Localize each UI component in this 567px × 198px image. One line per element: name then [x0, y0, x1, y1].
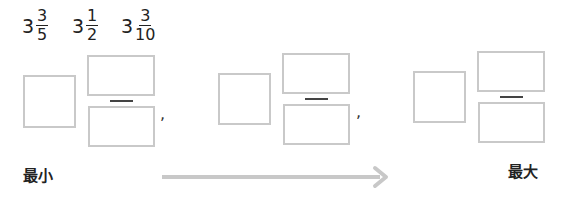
whole-part: 3	[121, 15, 133, 37]
whole-part: 3	[72, 15, 84, 37]
whole-part: 3	[22, 15, 34, 37]
denominator: 10	[135, 26, 155, 43]
answer-3-denominator-box[interactable]	[478, 102, 545, 143]
fraction-bar	[110, 100, 133, 102]
denominator: 5	[37, 26, 47, 43]
answer-3-whole-box[interactable]	[413, 71, 466, 123]
fraction-bar	[305, 98, 328, 100]
answer-3-numerator-box[interactable]	[477, 51, 545, 92]
answer-1-numerator-box[interactable]	[87, 55, 155, 96]
order-arrow-line	[162, 175, 380, 179]
min-label: 最小	[23, 164, 53, 185]
answer-1-whole-box[interactable]	[23, 75, 76, 128]
arrow-right-icon	[372, 165, 390, 189]
numerator: 3	[139, 8, 151, 26]
fraction-bar	[500, 96, 523, 98]
separator-comma: ,	[356, 102, 361, 121]
given-number-3: 3 3 10	[121, 8, 155, 43]
given-number-1: 3 3 5	[22, 8, 48, 43]
fraction: 1 2	[86, 8, 98, 43]
answer-2-numerator-box[interactable]	[282, 53, 350, 94]
answer-2-whole-box[interactable]	[218, 73, 271, 125]
numerator: 3	[36, 8, 48, 26]
fraction: 3 10	[135, 8, 155, 43]
fraction: 3 5	[36, 8, 48, 43]
given-number-2: 3 1 2	[72, 8, 98, 43]
answer-1-denominator-box[interactable]	[88, 106, 155, 147]
separator-comma: ,	[160, 104, 165, 123]
answer-2-denominator-box[interactable]	[283, 104, 350, 145]
max-label: 最大	[508, 160, 538, 181]
denominator: 2	[87, 26, 97, 43]
numerator: 1	[86, 8, 98, 26]
